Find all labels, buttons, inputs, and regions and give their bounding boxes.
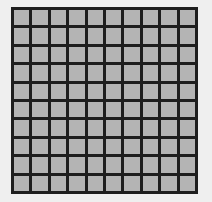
- grid-cell: [51, 157, 66, 172]
- grid-cell: [69, 120, 84, 135]
- grid-cell: [32, 65, 47, 80]
- grid-cell: [180, 157, 195, 172]
- grid-cell: [161, 157, 176, 172]
- grid-cell: [88, 176, 103, 191]
- grid-cell: [180, 176, 195, 191]
- grid-cell: [124, 157, 139, 172]
- square-grid: [11, 7, 198, 194]
- grid-cell: [106, 28, 121, 43]
- grid-cell: [14, 10, 29, 25]
- grid-cell: [124, 84, 139, 99]
- grid-cell: [180, 65, 195, 80]
- grid-cell: [32, 139, 47, 154]
- grid-cell: [32, 47, 47, 62]
- grid-cell: [161, 139, 176, 154]
- grid-cell: [143, 102, 158, 117]
- grid-cell: [14, 139, 29, 154]
- grid-cell: [14, 47, 29, 62]
- grid-cell: [88, 65, 103, 80]
- grid-cell: [106, 120, 121, 135]
- grid-cell: [51, 47, 66, 62]
- grid-cell: [69, 10, 84, 25]
- grid-cell: [88, 47, 103, 62]
- grid-cell: [124, 102, 139, 117]
- grid-cell: [51, 84, 66, 99]
- grid-cell: [180, 10, 195, 25]
- grid-cell: [69, 47, 84, 62]
- grid-cell: [106, 157, 121, 172]
- grid-cell: [143, 157, 158, 172]
- grid-cell: [69, 157, 84, 172]
- grid-cell: [106, 139, 121, 154]
- grid-cell: [88, 120, 103, 135]
- grid-cell: [161, 65, 176, 80]
- grid-cell: [124, 120, 139, 135]
- grid-cell: [124, 139, 139, 154]
- grid-cell: [143, 120, 158, 135]
- grid-cell: [14, 65, 29, 80]
- grid-cell: [51, 28, 66, 43]
- grid-cell: [32, 157, 47, 172]
- grid-cell: [180, 120, 195, 135]
- grid-cell: [69, 65, 84, 80]
- grid-cell: [106, 84, 121, 99]
- grid-cell: [124, 28, 139, 43]
- grid-cell: [14, 102, 29, 117]
- grid-cell: [106, 65, 121, 80]
- grid-cell: [51, 120, 66, 135]
- grid-cell: [51, 65, 66, 80]
- grid-cell: [69, 84, 84, 99]
- grid-cell: [161, 47, 176, 62]
- grid-cell: [69, 176, 84, 191]
- grid-cell: [69, 139, 84, 154]
- grid-cell: [143, 84, 158, 99]
- grid-cell: [106, 10, 121, 25]
- grid-cell: [124, 176, 139, 191]
- grid-cell: [14, 157, 29, 172]
- grid-cell: [143, 47, 158, 62]
- grid-cell: [14, 84, 29, 99]
- grid-cell: [32, 102, 47, 117]
- grid-cell: [161, 176, 176, 191]
- grid-cell: [180, 28, 195, 43]
- grid-cell: [69, 102, 84, 117]
- grid-cell: [51, 10, 66, 25]
- grid-cell: [14, 120, 29, 135]
- grid-cell: [88, 10, 103, 25]
- grid-cell: [180, 139, 195, 154]
- grid-cell: [161, 28, 176, 43]
- grid-cell: [124, 47, 139, 62]
- grid-cell: [180, 47, 195, 62]
- grid-cell: [14, 28, 29, 43]
- grid-cell: [161, 102, 176, 117]
- grid-cell: [32, 176, 47, 191]
- grid-cell: [180, 84, 195, 99]
- grid-cell: [161, 10, 176, 25]
- grid-cell: [124, 10, 139, 25]
- grid-cell: [88, 102, 103, 117]
- grid-cell: [88, 139, 103, 154]
- grid-cell: [106, 176, 121, 191]
- grid-cell: [143, 139, 158, 154]
- grid-cell: [143, 10, 158, 25]
- grid-cell: [88, 28, 103, 43]
- grid-cell: [143, 65, 158, 80]
- grid-cell: [88, 157, 103, 172]
- grid-cell: [143, 176, 158, 191]
- grid-cell: [32, 84, 47, 99]
- grid-cell: [124, 65, 139, 80]
- grid-cell: [69, 28, 84, 43]
- grid-cell: [32, 10, 47, 25]
- grid-cell: [161, 84, 176, 99]
- grid-cell: [51, 102, 66, 117]
- grid-cell: [161, 120, 176, 135]
- grid-cell: [143, 28, 158, 43]
- grid-cell: [106, 47, 121, 62]
- grid-cell: [51, 176, 66, 191]
- grid-cell: [32, 120, 47, 135]
- grid-cell: [106, 102, 121, 117]
- grid-cell: [32, 28, 47, 43]
- grid-cell: [180, 102, 195, 117]
- grid-cell: [14, 176, 29, 191]
- grid-cell: [88, 84, 103, 99]
